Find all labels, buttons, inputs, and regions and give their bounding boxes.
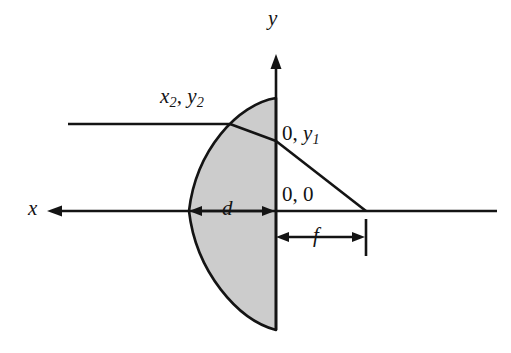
lens-ray-diagram: y x x2, y2 0, y1 0, 0 d f — [0, 0, 511, 353]
x-axis-arrowhead — [47, 206, 62, 217]
x-axis-label: x — [28, 198, 37, 219]
surface-point-label: x2, y2 — [160, 86, 204, 107]
y-axis-label: y — [268, 8, 277, 29]
exit-point-label: 0, y1 — [282, 123, 320, 144]
focal-length-label: f — [313, 225, 319, 246]
focal-arrowhead-right — [352, 232, 365, 242]
thickness-label: d — [222, 198, 233, 219]
diagram-canvas — [0, 0, 511, 353]
focal-arrowhead-left — [276, 232, 289, 242]
y-axis-arrowhead — [271, 54, 282, 69]
origin-label: 0, 0 — [282, 184, 314, 205]
